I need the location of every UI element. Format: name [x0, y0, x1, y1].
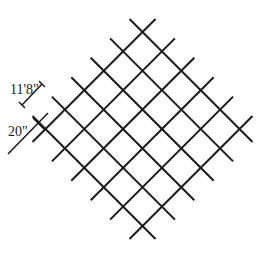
width-dimension-tick [33, 118, 45, 130]
grid-line-descending [71, 77, 194, 200]
grid-line-descending [110, 38, 233, 161]
grid-diagram: 11'8" 20" [0, 0, 260, 265]
grid-line-ascending [130, 116, 253, 239]
grid-line-ascending [91, 77, 214, 200]
grid-line-ascending [52, 38, 175, 161]
grid-line-ascending [33, 19, 156, 142]
grid-line-descending [130, 19, 253, 142]
grid-line-descending [33, 116, 156, 239]
width-label: 20" [8, 124, 28, 139]
spacing-label: 11'8" [10, 82, 39, 97]
grid-line-descending [52, 97, 175, 220]
grid-line-ascending [110, 97, 233, 220]
grid-lines [33, 19, 253, 239]
grid-line-ascending [71, 58, 194, 181]
grid-line-descending [91, 58, 214, 181]
